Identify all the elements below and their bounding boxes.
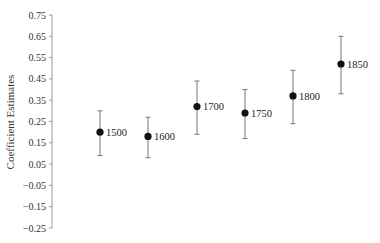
point-1700: 1700	[193, 81, 224, 134]
point-marker	[96, 129, 103, 136]
y-tick-label: 0.45	[29, 73, 47, 84]
point-1750: 1750	[241, 90, 272, 139]
y-tick-label: 0.65	[29, 31, 47, 42]
y-tick-label: 0.55	[29, 52, 47, 63]
y-tick-label: −0.15	[23, 201, 46, 212]
y-tick-label: −0.05	[23, 180, 46, 191]
point-label: 1850	[347, 59, 368, 70]
y-tick-label: 0.15	[29, 137, 47, 148]
point-1600: 1600	[144, 117, 175, 157]
point-label: 1750	[251, 108, 272, 119]
y-axis-label: Coefficient Estimates	[4, 75, 16, 170]
data-points: 150016001700175018001850	[96, 36, 368, 157]
point-label: 1500	[106, 127, 127, 138]
y-tick-label: 0.25	[29, 116, 47, 127]
point-marker	[289, 92, 296, 99]
y-tick-label: 0.75	[29, 10, 47, 21]
point-1800: 1800	[289, 70, 320, 123]
coefficient-chart: 0.750.650.550.450.350.250.150.05−0.05−0.…	[0, 0, 380, 243]
point-label: 1600	[154, 131, 175, 142]
point-label: 1700	[203, 101, 224, 112]
point-label: 1800	[299, 91, 320, 102]
point-1500: 1500	[96, 111, 127, 156]
y-tick-label: 0.35	[29, 95, 47, 106]
point-marker	[241, 109, 248, 116]
y-tick-label: −0.25	[23, 223, 46, 234]
y-tick-label: 0.05	[29, 159, 47, 170]
point-1850: 1850	[337, 36, 368, 94]
point-marker	[337, 60, 344, 67]
point-marker	[144, 133, 151, 140]
point-marker	[193, 103, 200, 110]
y-axis: 0.750.650.550.450.350.250.150.05−0.05−0.…	[23, 10, 52, 234]
